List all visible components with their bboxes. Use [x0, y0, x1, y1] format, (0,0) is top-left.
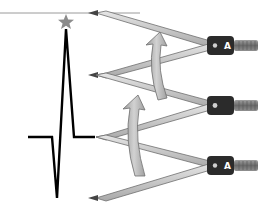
caliper-knob — [234, 40, 258, 51]
curved-arrow-lower-icon — [123, 95, 145, 176]
caliper-tip — [88, 10, 98, 16]
caliper-head — [207, 96, 234, 115]
caliper-knob — [234, 100, 258, 111]
caliper-head-label: A — [224, 161, 231, 171]
pivot-screw-icon — [213, 43, 217, 47]
pivot-screw-icon — [213, 163, 217, 167]
caliper-leg — [96, 135, 214, 168]
caliper-diagram: A A — [0, 0, 275, 214]
caliper-knob — [234, 160, 258, 171]
caliper-leg — [96, 163, 214, 201]
ecg-waveform — [28, 29, 95, 198]
caliper-leg — [96, 103, 214, 140]
caliper-middle — [96, 73, 258, 140]
caliper-top: A — [88, 10, 258, 78]
caliper-head-label: A — [224, 41, 231, 51]
star-icon — [58, 14, 74, 29]
caliper-tip — [88, 195, 98, 201]
pivot-screw-icon — [213, 103, 218, 108]
caliper-bottom: A — [88, 135, 258, 201]
